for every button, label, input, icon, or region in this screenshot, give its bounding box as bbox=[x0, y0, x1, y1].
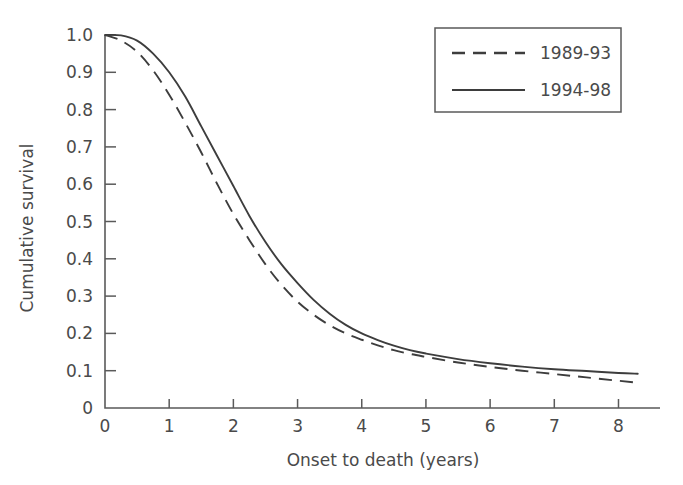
y-tick-label: 0.2 bbox=[66, 323, 93, 343]
y-tick-label: 0.5 bbox=[66, 212, 93, 232]
x-tick-label: 7 bbox=[549, 416, 560, 436]
legend-label-1994-98: 1994-98 bbox=[540, 80, 611, 100]
survival-curve-figure: 012345678 00.10.20.30.40.50.60.70.80.91.… bbox=[0, 0, 683, 485]
y-tick-label: 0.6 bbox=[66, 174, 93, 194]
x-tick-label: 5 bbox=[421, 416, 432, 436]
x-tick-label: 2 bbox=[228, 416, 239, 436]
x-tick-label: 6 bbox=[485, 416, 496, 436]
y-tick-label: 0.4 bbox=[66, 249, 93, 269]
y-tick-label: 1.0 bbox=[66, 25, 93, 45]
y-tick-label: 0.1 bbox=[66, 361, 93, 381]
legend-label-1989-93: 1989-93 bbox=[540, 43, 611, 63]
x-tick-label: 1 bbox=[164, 416, 175, 436]
y-tick-label: 0.7 bbox=[66, 137, 93, 157]
x-tick-labels: 012345678 bbox=[100, 416, 624, 436]
x-tick-label: 8 bbox=[613, 416, 624, 436]
x-tick-label: 3 bbox=[292, 416, 303, 436]
y-tick-label: 0.3 bbox=[66, 286, 93, 306]
chart-canvas: 012345678 00.10.20.30.40.50.60.70.80.91.… bbox=[0, 0, 683, 485]
y-tick-label: 0 bbox=[82, 398, 93, 418]
x-tick-label: 0 bbox=[100, 416, 111, 436]
x-tick-label: 4 bbox=[356, 416, 367, 436]
x-axis-title: Onset to death (years) bbox=[287, 450, 480, 470]
y-tick-labels: 00.10.20.30.40.50.60.70.80.91.0 bbox=[66, 25, 93, 418]
y-tick-label: 0.9 bbox=[66, 62, 93, 82]
legend: 1989-93 1994-98 bbox=[435, 28, 621, 112]
y-tick-label: 0.8 bbox=[66, 100, 93, 120]
y-axis-title: Cumulative survival bbox=[17, 143, 37, 312]
